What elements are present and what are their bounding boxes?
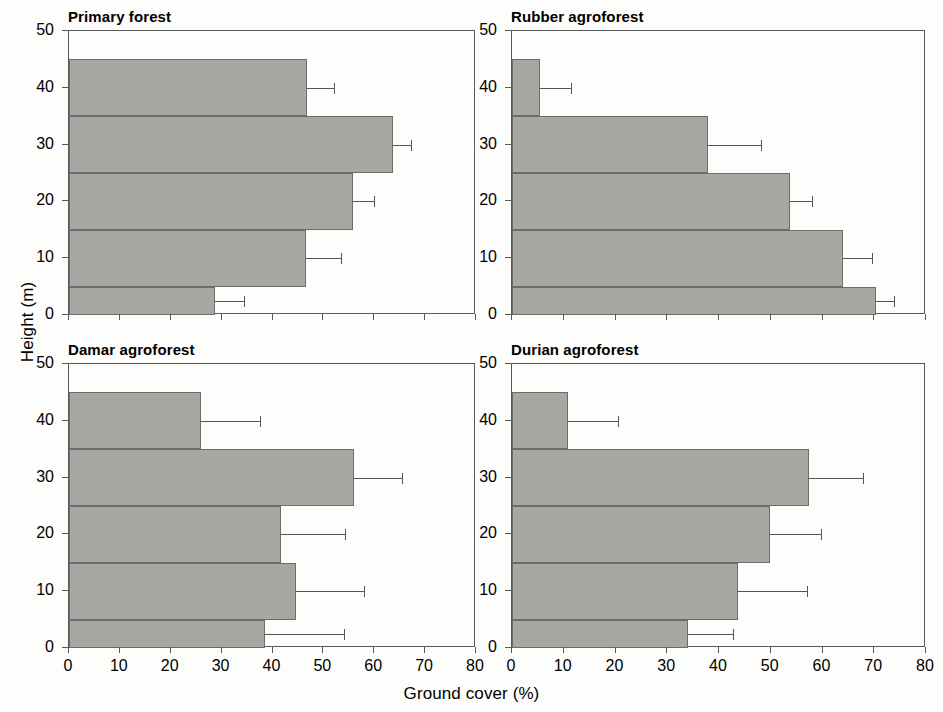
y-tick [505,30,511,31]
y-tick [505,257,511,258]
bar-25-35 [69,116,393,173]
x-tick [119,314,120,320]
x-tick-label: 50 [302,658,342,674]
bar-35-45 [512,392,568,449]
x-tick-label: 20 [150,658,190,674]
y-tick-label: 50 [14,355,54,371]
y-tick [62,477,68,478]
x-tick [424,647,425,653]
y-tick [505,420,511,421]
y-tick [62,30,68,31]
x-tick [68,647,69,653]
x-tick-label: 70 [853,658,893,674]
error-bar-cap-15-25 [374,196,375,207]
x-tick [373,647,374,653]
x-tick [563,314,564,320]
x-tick [770,647,771,653]
x-tick [221,314,222,320]
y-tick-label: 50 [457,22,497,38]
error-bar-line-35-45 [307,88,334,89]
y-tick [62,257,68,258]
y-tick-label: 0 [457,639,497,655]
y-tick-label: 30 [457,469,497,485]
y-tick-label: 30 [457,136,497,152]
error-bar-cap-5-15 [364,586,365,597]
x-tick [615,314,616,320]
y-tick [505,87,511,88]
x-tick-label: 40 [698,658,738,674]
error-bar-cap-5-15 [807,586,808,597]
bar-15-25 [69,173,353,230]
bar-25-35 [512,449,809,506]
y-tick [505,363,511,364]
bar-15-25 [512,173,790,230]
x-tick [272,314,273,320]
figure-root: Height (m) Ground cover (%) Primary fore… [0,0,943,712]
bar-5-15 [69,563,296,620]
x-tick [718,314,719,320]
y-tick-label: 50 [14,22,54,38]
panel-top-left: Primary forest01020304050 [68,30,475,314]
error-bar-line-0-5 [688,634,734,635]
y-tick-label: 20 [457,192,497,208]
x-tick [563,647,564,653]
y-tick-label: 0 [14,639,54,655]
panel-top-right: Rubber agroforest01020304050 [511,30,925,314]
y-tick [62,144,68,145]
y-tick [62,87,68,88]
y-tick-label: 30 [14,469,54,485]
panel-title: Durian agroforest [511,341,639,358]
error-bar-cap-25-35 [411,140,412,151]
y-tick [62,200,68,201]
y-tick-label: 50 [457,355,497,371]
x-tick [925,314,926,320]
bar-25-35 [512,116,708,173]
x-tick-label: 60 [802,658,842,674]
error-bar-line-15-25 [770,534,821,535]
error-bar-line-35-45 [201,421,260,422]
x-tick [119,647,120,653]
bar-5-15 [512,563,738,620]
error-bar-cap-25-35 [863,473,864,484]
error-bar-line-25-35 [809,478,863,479]
x-tick [873,314,874,320]
error-bar-line-15-25 [790,201,812,202]
y-tick-label: 20 [14,525,54,541]
x-tick [822,314,823,320]
panel-bottom-right: Durian agroforest01020304050010203040506… [511,363,925,647]
error-bar-cap-35-45 [571,83,572,94]
error-bar-line-0-5 [265,634,344,635]
error-bar-line-35-45 [568,421,618,422]
x-tick-label: 40 [252,658,292,674]
x-tick-label: 70 [404,658,444,674]
bar-5-15 [69,230,306,287]
x-tick-label: 80 [455,658,495,674]
y-tick-label: 40 [14,79,54,95]
bar-35-45 [69,59,307,116]
y-tick [505,144,511,145]
error-bar-cap-5-15 [341,253,342,264]
error-bar-line-35-45 [540,88,571,89]
y-tick-label: 30 [14,136,54,152]
x-tick [322,314,323,320]
panel-bottom-left: Damar agroforest010203040500102030405060… [68,363,475,647]
bar-15-25 [69,506,281,563]
x-tick [666,647,667,653]
x-tick-label: 10 [99,658,139,674]
error-bar-cap-15-25 [821,529,822,540]
panel-title: Damar agroforest [68,341,195,358]
y-tick-label: 10 [457,582,497,598]
error-bar-cap-0-5 [733,629,734,640]
y-tick [62,420,68,421]
bar-0-5 [512,620,688,648]
x-tick [373,314,374,320]
error-bar-line-5-15 [843,258,871,259]
x-tick-label: 80 [905,658,943,674]
error-bar-cap-0-5 [344,629,345,640]
bar-15-25 [512,506,770,563]
x-tick [424,314,425,320]
plot-area [511,363,925,647]
x-tick [770,314,771,320]
y-tick-label: 20 [14,192,54,208]
x-tick [873,647,874,653]
